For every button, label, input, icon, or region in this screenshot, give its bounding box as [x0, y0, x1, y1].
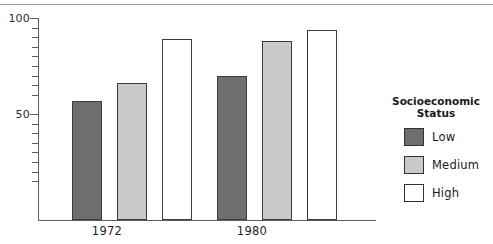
y-tick-label-50-text: 50 [4, 108, 30, 121]
legend-label-low: Low [432, 130, 455, 144]
plot-area: 100 50 1972 1980 [0, 0, 380, 244]
y-axis-minor-tick [32, 76, 39, 77]
legend-title: Socioeconomic Status [383, 95, 489, 119]
y-axis-minor-tick [32, 143, 39, 144]
y-axis-line [38, 18, 39, 221]
y-tick-label-50: 50 [0, 108, 30, 120]
legend-swatch-low [404, 128, 424, 146]
bar-1980-high [307, 30, 337, 220]
legend-swatch-high [404, 184, 424, 202]
y-axis-minor-tick [32, 47, 39, 48]
legend-title-line-2: Status [383, 107, 489, 119]
y-axis-major-tick [30, 18, 39, 19]
y-axis-minor-tick [32, 124, 39, 125]
y-tick-label-100: 100 [0, 12, 30, 24]
legend-label-high: High [432, 186, 459, 200]
bar-1980-medium [262, 41, 292, 220]
legend: Socioeconomic Status LowMediumHigh [383, 95, 493, 208]
legend-items: LowMediumHigh [383, 124, 493, 206]
legend-title-line-1: Socioeconomic [392, 95, 480, 107]
x-axis-group-label-1972: 1972 [77, 224, 137, 238]
y-axis-minor-tick [32, 181, 39, 182]
y-axis-minor-tick [32, 37, 39, 38]
y-axis-minor-tick [32, 152, 39, 153]
legend-item-medium: Medium [383, 152, 493, 178]
legend-swatch-medium [404, 156, 424, 174]
legend-item-high: High [383, 180, 493, 206]
y-axis-minor-tick [32, 95, 39, 96]
bar-1980-low [217, 76, 247, 220]
y-tick-label-100-text: 100 [4, 12, 30, 25]
x-axis-group-label-1980: 1980 [222, 224, 282, 238]
bar-1972-medium [117, 83, 147, 220]
y-axis-minor-tick [32, 172, 39, 173]
legend-item-low: Low [383, 124, 493, 150]
y-axis-minor-tick [32, 66, 39, 67]
y-axis-minor-tick [32, 162, 39, 163]
legend-label-medium: Medium [432, 158, 479, 172]
y-axis-minor-tick [32, 133, 39, 134]
bar-1972-high [162, 39, 192, 220]
y-axis-major-tick [30, 114, 39, 115]
bar-1972-low [72, 101, 102, 220]
y-axis-minor-tick [32, 85, 39, 86]
y-axis-minor-tick [32, 28, 39, 29]
bar-chart: 100 50 1972 1980 Socioeconomic Status Lo… [0, 0, 493, 244]
x-axis-line [38, 220, 376, 221]
y-axis-minor-tick [32, 56, 39, 57]
